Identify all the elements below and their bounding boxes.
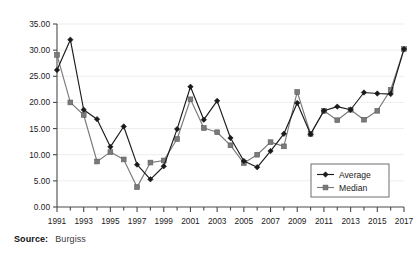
x-axis-tick-label: 1999: [155, 216, 174, 226]
y-axis-tick-label: 5.00: [34, 176, 51, 186]
data-point: [362, 117, 367, 122]
x-axis-tick-label: 2015: [368, 216, 387, 226]
y-axis-tick-label: 20.00: [29, 97, 50, 107]
source-label: Source:: [14, 234, 48, 244]
data-point: [375, 91, 380, 96]
legend-label-average: Average: [339, 170, 371, 180]
legend: AverageMedian: [311, 164, 389, 197]
x-axis-tick-label: 2017: [395, 216, 414, 226]
source-caption: Source:Burgiss: [14, 234, 86, 244]
x-axis-tick-label: 1993: [74, 216, 93, 226]
data-point: [81, 113, 86, 118]
data-point: [175, 137, 180, 142]
data-point: [375, 108, 380, 113]
x-axis-tick-label: 2011: [315, 216, 333, 226]
x-axis-tick-label: 1995: [101, 216, 120, 226]
data-point: [188, 84, 193, 89]
line-chart: 0.005.0010.0015.0020.0025.0030.0035.0019…: [0, 0, 416, 258]
data-point: [188, 97, 193, 102]
data-point: [135, 185, 140, 190]
x-axis-tick-label: 1991: [48, 216, 67, 226]
data-point: [268, 140, 273, 145]
data-point: [281, 144, 286, 149]
y-axis-tick-label: 35.00: [29, 19, 50, 29]
legend-label-median: Median: [339, 183, 367, 193]
x-axis-tick-label: 2009: [288, 216, 307, 226]
y-axis-tick-label: 10.00: [29, 150, 50, 160]
series-average: [54, 37, 406, 182]
data-point: [108, 150, 113, 155]
source-value: Burgiss: [55, 234, 86, 244]
data-point: [54, 67, 59, 72]
data-point: [295, 90, 300, 95]
x-axis-tick-label: 2005: [235, 216, 254, 226]
data-point: [174, 126, 179, 131]
data-point: [95, 159, 100, 164]
data-point: [68, 100, 73, 105]
x-axis-tick-label: 2013: [341, 216, 360, 226]
y-axis-tick-label: 0.00: [34, 202, 51, 212]
x-axis-tick-label: 2003: [208, 216, 227, 226]
data-point: [228, 143, 233, 148]
x-axis-tick-label: 2001: [181, 216, 200, 226]
data-point: [335, 118, 340, 123]
data-point: [68, 37, 73, 42]
y-axis-tick-label: 30.00: [29, 45, 50, 55]
x-axis-tick-label: 2007: [261, 216, 280, 226]
data-point: [215, 130, 220, 135]
data-point: [228, 135, 233, 140]
data-point: [255, 152, 260, 157]
chart-figure: 0.005.0010.0015.0020.0025.0030.0035.0019…: [0, 0, 416, 258]
data-point: [148, 160, 153, 165]
legend-marker-median: [323, 185, 328, 190]
x-axis-tick-label: 1997: [128, 216, 147, 226]
data-point: [55, 52, 60, 57]
data-point: [335, 104, 340, 109]
data-point: [201, 126, 206, 131]
y-axis-tick-label: 25.00: [29, 71, 50, 81]
y-axis-tick-label: 15.00: [29, 124, 50, 134]
data-point: [121, 157, 126, 162]
